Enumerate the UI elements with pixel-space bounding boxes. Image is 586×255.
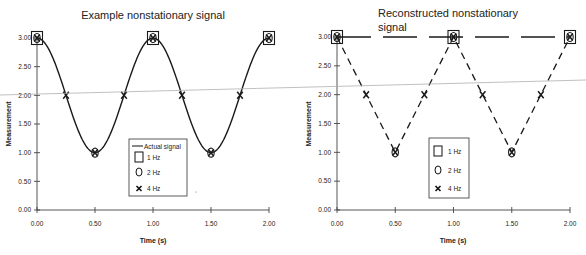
x-marker-icon: [179, 92, 185, 99]
x-marker-icon: [121, 92, 127, 99]
x-marker-icon: [538, 91, 544, 98]
x-marker-icon: [237, 92, 243, 99]
y-tick-label: 0.00: [318, 206, 331, 213]
y-tick-label: 0.50: [18, 178, 31, 185]
y-tick-label: 3.00: [318, 33, 331, 40]
legend-1hz-label: 1 Hz: [448, 148, 461, 155]
x-marker-icon: [392, 149, 398, 156]
x-tick-label: 0.50: [89, 220, 102, 227]
y-tick-label: 2.00: [18, 92, 31, 99]
y-tick-label: 1.50: [18, 120, 31, 127]
right-legend: 1 Hz 2 Hz 4 Hz: [429, 138, 469, 198]
left-chart-title: Example nonstationary signal: [81, 9, 225, 21]
x-tick-label: 0.50: [389, 220, 402, 227]
x-tick-label: 2.00: [263, 220, 276, 227]
right-y-axis-label: Measurement: [305, 101, 312, 147]
x-tick-label: 2.00: [564, 220, 577, 227]
left-y-axis-label: Measurement: [5, 101, 12, 147]
right-chart-title-line1: Reconstructed nonstationary: [378, 7, 519, 19]
legend-4hz-label: 4 Hz: [147, 185, 160, 192]
left-x-axis-label: Time (s): [140, 237, 167, 245]
legend-4hz-label: 4 Hz: [448, 185, 461, 192]
x-tick-label: 1.50: [205, 220, 218, 227]
legend-2hz-label: 2 Hz: [147, 169, 160, 176]
right-chart-title-line2: signal: [378, 21, 407, 33]
right-chart: Reconstructed nonstationary signal 0.000…: [305, 7, 577, 245]
legend-1hz-label: 1 Hz: [147, 154, 160, 161]
y-tick-label: 3.00: [18, 34, 31, 41]
x-tick-label: 1.00: [447, 220, 460, 227]
x-tick-label: 0.00: [31, 220, 44, 227]
scan-artifact-line: [0, 80, 586, 95]
x-marker-icon: [422, 91, 428, 98]
legend-actual-label: Actual signal: [144, 143, 181, 151]
y-tick-label: 1.00: [318, 149, 331, 156]
y-tick-label: 0.00: [18, 206, 31, 213]
y-tick-label: 1.00: [18, 149, 31, 156]
left-chart: Example nonstationary signal 0.000.501.0…: [5, 9, 276, 245]
x-marker-icon: [509, 149, 515, 156]
legend-2hz-label: 2 Hz: [448, 167, 461, 174]
y-tick-label: 2.50: [318, 62, 331, 69]
right-x-axis-label: Time (s): [440, 237, 467, 245]
y-tick-label: 1.50: [318, 120, 331, 127]
x-marker-icon: [480, 91, 486, 98]
y-tick-label: 2.00: [318, 91, 331, 98]
2hz-reconstruction-line: [337, 37, 570, 152]
left-axes: 0.000.501.001.502.000.000.501.001.502.00…: [18, 34, 275, 227]
left-legend: Actual signal 1 Hz 2 Hz 4 Hz: [129, 139, 187, 196]
y-tick-label: 0.50: [318, 177, 331, 184]
x-tick-label: 1.00: [147, 220, 160, 227]
left-plot-area: [32, 32, 275, 158]
charts-figure: Example nonstationary signal 0.000.501.0…: [0, 0, 586, 255]
x-tick-label: 1.50: [505, 220, 518, 227]
x-tick-label: 0.00: [331, 220, 344, 227]
x-marker-icon: [363, 91, 369, 98]
speck: [195, 191, 196, 192]
y-tick-label: 2.50: [18, 63, 31, 70]
actual-signal-line: [37, 38, 269, 153]
